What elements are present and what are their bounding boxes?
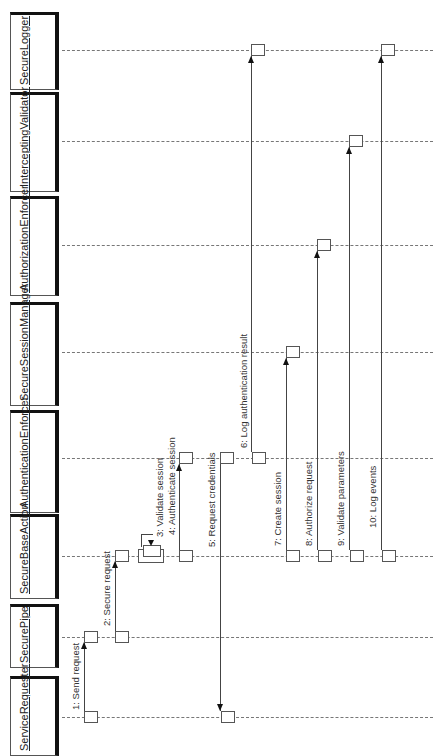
participant-label: SecureSessionManager — [18, 284, 30, 401]
activation-authentication-enforcer-6 — [252, 452, 266, 464]
participant-label: SecurePipe — [18, 606, 30, 663]
activation-service-requester-1 — [84, 711, 98, 723]
message-10-label: 10: Log events — [367, 466, 378, 528]
activation-secure-logger-6 — [251, 44, 265, 56]
message-7-label: 7: Create session — [272, 472, 283, 546]
participant-label: SecureBaseAction — [18, 504, 30, 595]
participant-service-requester: ServiceRequester — [10, 676, 59, 756]
participant-authorization-enforcer: AuthorizationEnforcer — [10, 196, 59, 296]
arrowhead-icon — [378, 56, 384, 63]
message-7-arrow — [286, 358, 287, 550]
participant-secure-session-manager: SecureSessionManager — [10, 302, 59, 406]
participant-intercepting-validator: InterceptingValidator — [10, 92, 59, 192]
message-8-arrow — [317, 251, 318, 550]
participant-label: ServiceRequester — [18, 664, 30, 751]
lifeline-authentication-enforcer — [62, 458, 433, 459]
message-5-arrow — [220, 464, 221, 711]
message-6-label: 6: Log authentication result — [238, 334, 249, 448]
participant-secure-base-action: SecureBaseAction — [10, 514, 59, 599]
participant-secure-logger: SecureLogger — [10, 12, 59, 90]
message-1-label: 1: Send request — [70, 643, 81, 710]
arrowhead-icon — [283, 358, 289, 365]
arrowhead-icon — [248, 56, 254, 63]
message-3-label: 3: Validate session — [154, 458, 165, 537]
message-4-label: 4: Authenticate session — [166, 437, 177, 535]
lifeline-intercepting-validator — [62, 141, 433, 142]
activation-intercepting-validator-9 — [349, 135, 363, 147]
activation-authentication-enforcer-4 — [179, 452, 193, 464]
participant-authentication-enforcer: AuthenticationEnforcer — [10, 410, 59, 513]
arrowhead-icon — [346, 147, 352, 154]
arrowhead-icon — [81, 642, 87, 649]
arrowhead-icon — [314, 251, 320, 258]
activation-secure-base-action-9 — [350, 550, 364, 562]
activation-secure-session-manager-7 — [286, 346, 300, 358]
lifeline-authorization-enforcer — [62, 245, 433, 246]
message-2-arrow — [115, 561, 116, 631]
activation-secure-pipe-1 — [84, 631, 98, 643]
message-9-arrow — [349, 147, 350, 550]
activation-secure-base-action-7 — [286, 550, 300, 562]
activation-secure-base-action-10 — [382, 550, 396, 562]
activation-secure-logger-10 — [381, 44, 395, 56]
activation-secure-base-action-4 — [179, 550, 193, 562]
message-10-arrow — [381, 56, 382, 550]
activation-secure-base-action-8 — [318, 550, 332, 562]
arrowhead-icon — [148, 540, 154, 546]
message-8-label: 8: Authorize request — [303, 462, 314, 547]
message-1-arrow — [84, 642, 85, 711]
arrowhead-icon — [217, 704, 223, 711]
activation-secure-base-action-2 — [115, 550, 129, 562]
lifeline-service-requester — [62, 717, 433, 718]
message-4-arrow — [179, 464, 180, 550]
arrowhead-icon — [112, 561, 118, 568]
activation-authentication-enforcer-5 — [220, 452, 234, 464]
participant-label: InterceptingValidator — [18, 87, 30, 187]
participant-label: SecureLogger — [18, 16, 30, 85]
activation-service-requester-5 — [221, 711, 235, 723]
message-9-label: 9: Validate parameters — [335, 451, 346, 546]
message-2-label: 2: Secure request — [101, 551, 112, 626]
lifeline-secure-logger — [62, 50, 433, 51]
activation-secure-pipe-2 — [115, 631, 129, 643]
participant-label: AuthenticationEnforcer — [18, 397, 30, 508]
participant-label: AuthorizationEnforcer — [18, 185, 30, 291]
activation-authorization-enforcer-8 — [317, 239, 331, 251]
message-5-label: 5: Request credentials — [206, 452, 217, 547]
participant-secure-pipe: SecurePipe — [10, 604, 59, 668]
message-6-arrow — [251, 56, 252, 452]
